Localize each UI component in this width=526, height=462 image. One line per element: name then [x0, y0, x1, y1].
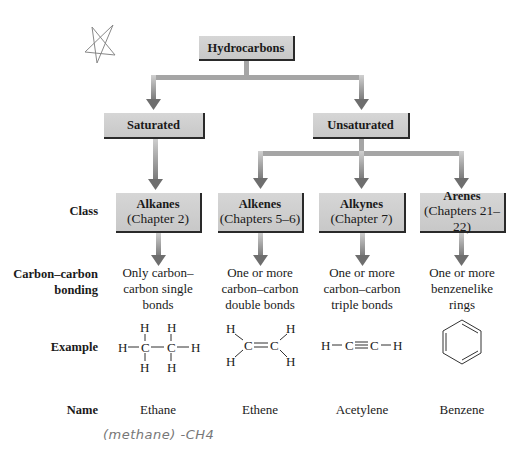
- acetylene-structure: H C C H: [321, 338, 402, 353]
- svg-text:C: C: [370, 338, 379, 353]
- ethene-structure: H H C C H H: [226, 321, 295, 369]
- name-ethane: Ethane: [103, 402, 213, 418]
- svg-text:H: H: [393, 338, 402, 353]
- svg-text:H: H: [140, 360, 149, 375]
- name-ethene: Ethene: [205, 402, 315, 418]
- svg-text:C: C: [270, 338, 279, 353]
- ethane-structure: H H H C C H H H: [118, 320, 200, 375]
- svg-text:H: H: [286, 321, 295, 336]
- svg-text:H: H: [321, 338, 330, 353]
- chemical-structures: H H H C C H H H H H C C H H: [0, 0, 526, 462]
- svg-text:C: C: [167, 340, 176, 355]
- svg-text:C: C: [345, 338, 354, 353]
- svg-text:H: H: [167, 320, 176, 335]
- svg-text:H: H: [226, 321, 235, 336]
- svg-text:C: C: [141, 340, 150, 355]
- svg-text:H: H: [191, 340, 200, 355]
- svg-text:H: H: [118, 340, 127, 355]
- svg-text:H: H: [286, 354, 295, 369]
- svg-text:C: C: [244, 338, 253, 353]
- benzene-ring-icon: [443, 320, 481, 364]
- svg-text:H: H: [167, 360, 176, 375]
- name-benzene: Benzene: [407, 402, 517, 418]
- svg-text:H: H: [226, 354, 235, 369]
- name-acetylene: Acetylene: [307, 402, 417, 418]
- svg-text:H: H: [140, 320, 149, 335]
- handwritten-note: (methane) -CH4: [103, 427, 214, 442]
